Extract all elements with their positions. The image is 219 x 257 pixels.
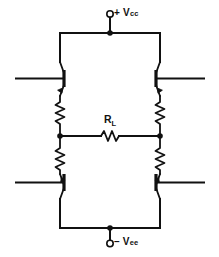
positive-supply-group	[60, 11, 160, 62]
emitter-resistor-upper-right	[156, 96, 165, 136]
negative-supply-terminal-icon	[107, 240, 113, 246]
negative-supply-subscript: ee	[130, 238, 139, 247]
load-resistor-subscript: L	[112, 119, 117, 128]
transistor-q4-lower-right	[155, 174, 204, 199]
q1-emitter-arrow-icon	[58, 88, 63, 93]
load-resistor-symbol: R	[104, 113, 112, 125]
re4-zigzag	[156, 136, 165, 174]
negative-supply-rail-label: – Vee	[114, 237, 138, 247]
emitter-resistor-upper-left	[56, 96, 65, 136]
load-resistor-zigzag	[101, 131, 119, 141]
transistor-q2-upper-right	[156, 62, 204, 96]
positive-supply-rail-label: + Vcc	[114, 8, 138, 18]
q2-emitter-arrow-icon	[157, 88, 162, 93]
re1-zigzag	[56, 96, 65, 136]
transistor-q3-lower-left	[16, 174, 65, 199]
schematic-canvas: + Vcc – Vee RL	[0, 0, 219, 257]
re2-zigzag	[156, 96, 165, 136]
positive-supply-sign: + V	[114, 7, 130, 18]
junction-dot-top	[107, 30, 113, 36]
circuit-schematic	[0, 0, 219, 257]
transistor-q1-upper-left	[16, 62, 64, 96]
load-branch	[57, 131, 163, 141]
emitter-resistor-lower-left	[56, 136, 65, 174]
q4-collector-lead	[156, 188, 160, 199]
negative-supply-sign: – V	[114, 236, 130, 247]
emitter-resistor-lower-right	[156, 136, 165, 174]
positive-supply-subscript: cc	[130, 9, 139, 18]
load-resistor-label: RL	[104, 114, 116, 128]
q3-collector-lead	[60, 188, 64, 199]
positive-supply-terminal-icon	[107, 11, 113, 17]
re3-zigzag	[56, 136, 65, 174]
negative-supply-group	[60, 199, 160, 247]
